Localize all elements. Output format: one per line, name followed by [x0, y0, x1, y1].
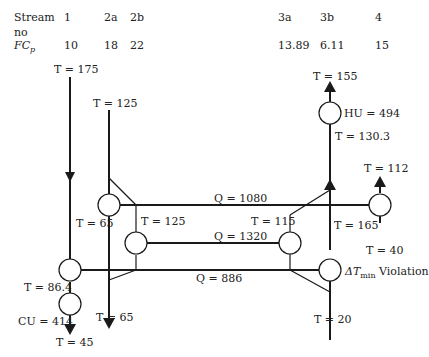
label-hu: HU = 494	[344, 108, 400, 119]
heater-icon	[319, 102, 341, 124]
label-t112: T = 112	[364, 163, 409, 174]
label-cu: CU = 414	[18, 316, 73, 327]
label-t65-left: T = 65	[76, 218, 114, 229]
label-t65-bottom: T = 65	[96, 312, 134, 323]
label-t45: T = 45	[56, 337, 94, 348]
label-t175: T = 175	[54, 64, 99, 75]
exchanger-1320-cold-icon	[279, 232, 301, 254]
violation-delta: ΔT	[345, 265, 360, 278]
cooler-icon	[59, 293, 81, 315]
label-t40: T = 40	[366, 245, 404, 256]
label-q1080: Q = 1080	[214, 193, 267, 204]
label-t864: T = 86.4	[24, 282, 72, 293]
exchanger-1320-hot-icon	[125, 232, 147, 254]
label-t20: T = 20	[314, 314, 352, 325]
label-t125-mid: T = 125	[141, 216, 186, 227]
exchanger-886-cold-icon	[319, 259, 341, 281]
stream-1-arrow-icon	[65, 172, 75, 182]
exchanger-886-hot-icon	[59, 259, 81, 281]
exchanger-1080-cold-icon	[369, 194, 391, 216]
label-dtmin-violation: ΔTmin Violation	[345, 266, 429, 280]
label-t125-top: T = 125	[93, 98, 138, 109]
exchanger-1080-hot-icon	[98, 194, 120, 216]
label-q1320: Q = 1320	[214, 231, 267, 242]
violation-text: Violation	[376, 265, 429, 278]
label-q886: Q = 886	[196, 273, 242, 284]
label-t155: T = 155	[313, 71, 358, 82]
violation-sub: min	[360, 271, 375, 280]
label-t165: T = 165	[334, 220, 379, 231]
label-t1303: T = 130.3	[335, 131, 390, 142]
stream-4-arrow-icon	[374, 176, 386, 187]
heat-exchanger-network	[0, 0, 429, 357]
stream-3-arrow-icon	[324, 179, 336, 190]
label-t115: T = 115	[251, 216, 296, 227]
